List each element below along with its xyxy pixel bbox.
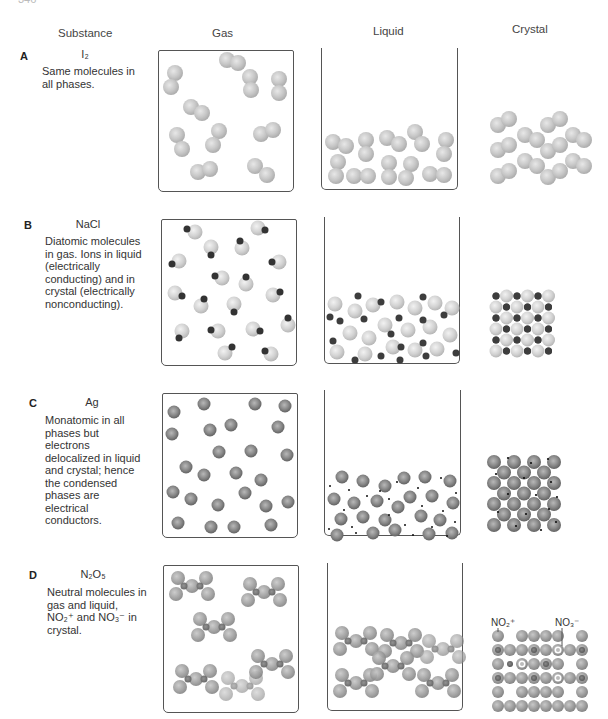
row-letter-c: C bbox=[29, 397, 37, 409]
n2o5-liquid-molecules bbox=[328, 563, 464, 711]
description-i2: Same molecules in all phases. bbox=[42, 65, 142, 90]
gas-container-n2o5 bbox=[163, 565, 299, 713]
gas-container-i2 bbox=[158, 50, 294, 192]
liquid-container-n2o5 bbox=[327, 563, 463, 711]
description-nacl: Diatomic molecules in gas. Ions in liqui… bbox=[45, 235, 145, 310]
description-ag: Monatomic in all phases but electrons de… bbox=[45, 414, 145, 527]
i2-gas-molecules bbox=[159, 51, 295, 193]
page-number: 346 bbox=[18, 0, 36, 5]
n2o5-crystal-lattice bbox=[490, 628, 590, 718]
i2-crystal-lattice bbox=[485, 105, 595, 195]
formula-ag: Ag bbox=[52, 396, 132, 408]
n2o5-gas-molecules bbox=[164, 566, 300, 714]
gas-container-ag bbox=[162, 393, 298, 538]
gas-container-nacl bbox=[161, 219, 297, 366]
formula-i2: I₂ bbox=[45, 48, 125, 60]
label-no2-plus: NO₂⁺ bbox=[491, 617, 515, 628]
i2-liquid-molecules bbox=[322, 48, 459, 190]
row-letter-a: A bbox=[20, 50, 28, 62]
formula-nacl: NaCl bbox=[48, 218, 128, 230]
nacl-crystal-lattice bbox=[488, 288, 558, 363]
header-gas: Gas bbox=[212, 27, 233, 39]
description-n2o5: Neutral molecules in gas and liquid, NO₂… bbox=[47, 586, 147, 636]
header-crystal: Crystal bbox=[512, 23, 548, 35]
liquid-container-ag bbox=[324, 390, 461, 536]
ag-crystal-lattice bbox=[486, 454, 566, 536]
liquid-container-i2 bbox=[321, 48, 458, 190]
label-no3-minus: NO₃⁻ bbox=[555, 617, 579, 628]
ag-liquid-atoms bbox=[325, 390, 462, 536]
row-letter-d: D bbox=[29, 569, 37, 581]
row-letter-b: B bbox=[24, 219, 32, 231]
liquid-container-nacl bbox=[324, 217, 460, 364]
nacl-gas-molecules bbox=[162, 220, 298, 367]
header-liquid: Liquid bbox=[373, 25, 404, 37]
ag-gas-atoms bbox=[163, 394, 299, 539]
nacl-liquid-ions bbox=[325, 217, 461, 364]
formula-n2o5: N₂O₅ bbox=[53, 568, 133, 580]
header-substance: Substance bbox=[58, 27, 112, 39]
